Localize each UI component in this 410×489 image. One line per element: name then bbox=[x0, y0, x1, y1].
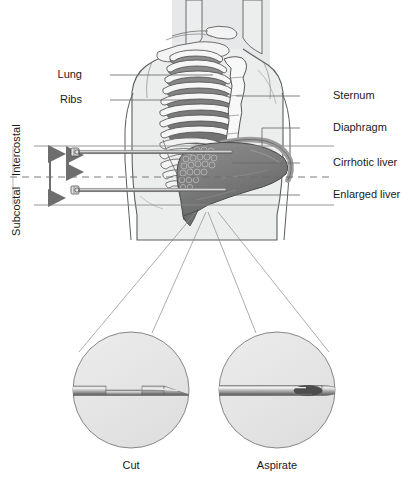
label-lung: Lung bbox=[58, 69, 82, 80]
liver-biopsy-figure: Lung Ribs Sternum Diaphragm Cirrhotic li… bbox=[0, 0, 410, 489]
inset-aspirate bbox=[212, 332, 338, 448]
label-subcostal: Subcostal bbox=[11, 187, 22, 236]
label-ribs: Ribs bbox=[60, 94, 82, 105]
aspirate-needle-assembly bbox=[212, 386, 338, 396]
aspirate-nose bbox=[322, 386, 338, 396]
label-diaphragm: Diaphragm bbox=[333, 122, 387, 133]
label-sternum: Sternum bbox=[333, 90, 375, 101]
label-enlarged-liver: Enlarged liver bbox=[333, 189, 400, 200]
label-cirrhotic-liver: Cirrhotic liver bbox=[333, 157, 397, 168]
caption-aspirate: Aspirate bbox=[227, 459, 327, 471]
label-intercostal: Intercostal bbox=[11, 124, 22, 176]
caption-cut: Cut bbox=[81, 459, 181, 471]
